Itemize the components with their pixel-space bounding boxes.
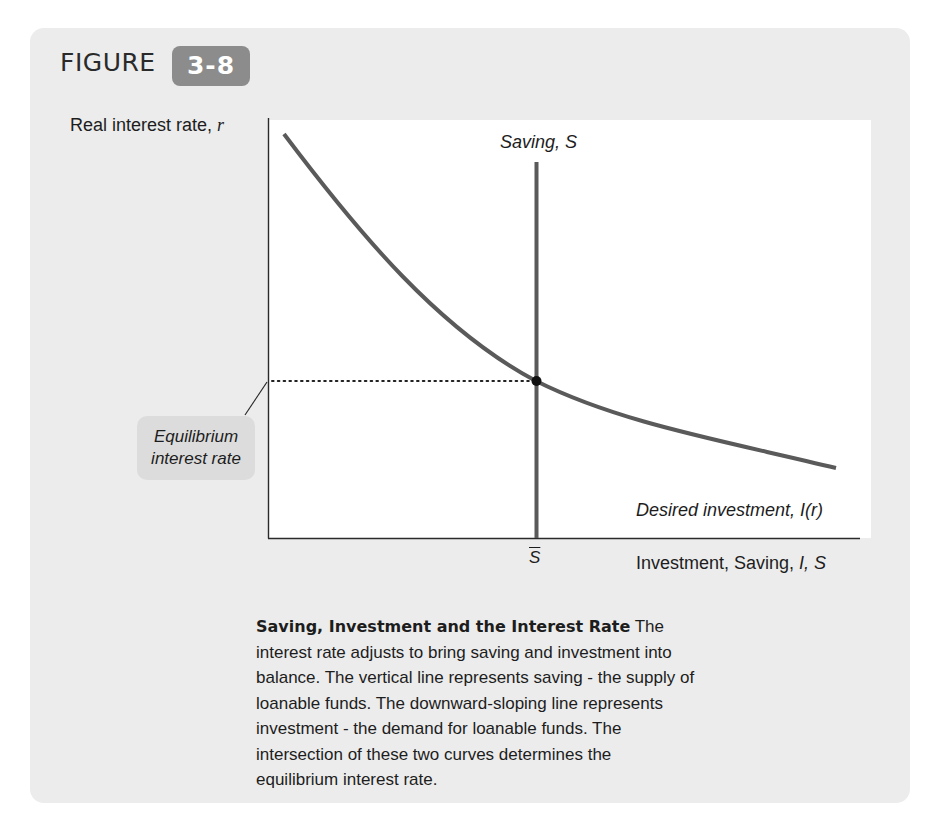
equilibrium-pointer xyxy=(245,382,267,415)
y-axis-label: Real interest rate, r xyxy=(70,115,224,136)
figure-caption: Saving, Investment and the Interest Rate… xyxy=(256,614,696,793)
callout-line-1: Equilibrium xyxy=(137,426,255,448)
s-bar-tick-label: S xyxy=(529,548,540,568)
x-axis-variables: I, S xyxy=(799,553,826,573)
saving-curve-label: Saving, S xyxy=(500,132,577,153)
caption-body: The interest rate adjusts to bring savin… xyxy=(256,617,694,789)
caption-title: Saving, Investment and the Interest Rate xyxy=(256,617,630,636)
x-axis-label: Investment, Saving, I, S xyxy=(636,553,826,574)
callout-line-2: interest rate xyxy=(137,448,255,470)
investment-curve xyxy=(284,134,836,468)
y-axis-label-text: Real interest rate, xyxy=(70,115,217,135)
investment-curve-label: Desired investment, I(r) xyxy=(636,500,823,521)
x-axis-label-text: Investment, Saving, xyxy=(636,553,799,573)
y-axis-variable: r xyxy=(217,115,224,135)
equilibrium-point xyxy=(532,376,542,386)
equilibrium-interest-rate-callout: Equilibrium interest rate xyxy=(137,416,255,480)
